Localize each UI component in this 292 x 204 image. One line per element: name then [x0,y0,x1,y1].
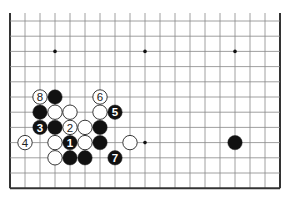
white-stone: 6 [93,90,107,104]
white-stone [123,135,137,149]
move-number-label: 2 [67,122,73,134]
star-point-icon [143,50,147,54]
black-stone: 3 [33,120,47,134]
move-number-label: 8 [37,91,43,103]
white-stone [48,135,62,149]
star-point-icon [53,50,57,54]
black-stone [48,120,62,134]
move-number-label: 7 [112,152,118,164]
white-stone: 2 [63,120,77,134]
white-stone: 8 [33,90,47,104]
white-stone [93,105,107,119]
move-number-label: 3 [37,122,43,134]
white-stone [78,120,92,134]
star-point-icon [233,50,237,54]
white-stone [48,151,62,165]
white-stone [48,105,62,119]
black-stone [228,135,242,149]
move-number-label: 4 [22,137,29,149]
move-number-label: 5 [112,106,119,118]
black-stone [33,105,47,119]
black-stone [78,151,92,165]
black-stone: 7 [108,151,122,165]
white-stone [78,135,92,149]
go-board-diagram: 86532417 [0,0,292,204]
move-number-label: 1 [67,137,74,149]
black-stone [48,90,62,104]
black-stone [93,120,107,134]
black-stone [93,135,107,149]
black-stone [63,151,77,165]
star-point-icon [143,141,147,145]
white-stone: 4 [18,135,32,149]
white-stone [63,105,77,119]
black-stone: 5 [108,105,122,119]
black-stone: 1 [63,135,77,149]
move-number-label: 6 [97,91,103,103]
